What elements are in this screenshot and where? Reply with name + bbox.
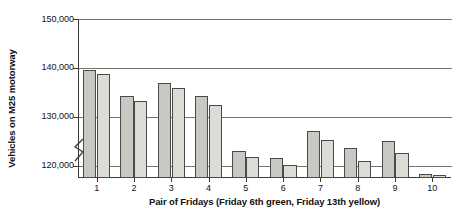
x-tick-label: 2	[121, 183, 147, 193]
x-tick-mark	[358, 178, 359, 182]
bar	[246, 157, 259, 178]
bars-layer	[78, 19, 451, 178]
bar	[120, 96, 133, 178]
bar	[283, 165, 296, 178]
x-tick-mark	[97, 178, 98, 182]
x-tick-mark	[320, 178, 321, 182]
bar	[172, 88, 185, 179]
bar	[232, 151, 245, 178]
bar-chart: Vehicles on M25 motorway 120,000130,0001…	[0, 0, 462, 217]
x-tick-mark	[246, 178, 247, 182]
bar	[209, 105, 222, 178]
bar	[158, 83, 171, 178]
x-tick-mark	[432, 178, 433, 182]
x-tick-label: 3	[158, 183, 184, 193]
x-tick-mark	[134, 178, 135, 182]
x-tick-label: 7	[307, 183, 333, 193]
y-axis-tick-labels: 120,000130,000140,000150,000	[18, 0, 74, 217]
x-tick-label: 6	[270, 183, 296, 193]
y-tick-label: 140,000	[20, 63, 74, 72]
bar	[358, 161, 371, 178]
y-tick-label: 150,000	[20, 15, 74, 24]
x-tick-label: 5	[233, 183, 259, 193]
x-axis-title: Pair of Fridays (Friday 6th green, Frida…	[78, 196, 451, 207]
bar	[134, 101, 147, 178]
y-tick-label: 120,000	[20, 161, 74, 170]
x-tick-mark	[283, 178, 284, 182]
x-axis-ticks: 12345678910	[78, 178, 451, 198]
bar	[83, 70, 96, 178]
bar	[270, 158, 283, 178]
bar	[395, 153, 408, 178]
x-tick-label: 4	[196, 183, 222, 193]
x-tick-mark	[209, 178, 210, 182]
bar	[321, 140, 334, 178]
bar	[195, 96, 208, 178]
bar	[382, 141, 395, 178]
x-tick-label: 8	[345, 183, 371, 193]
x-tick-label: 10	[419, 183, 445, 193]
x-tick-label: 9	[382, 183, 408, 193]
bar	[344, 148, 357, 178]
bar	[97, 74, 110, 178]
x-tick-label: 1	[84, 183, 110, 193]
x-tick-mark	[395, 178, 396, 182]
y-tick-label: 130,000	[20, 112, 74, 121]
x-tick-mark	[171, 178, 172, 182]
bar	[307, 131, 320, 178]
